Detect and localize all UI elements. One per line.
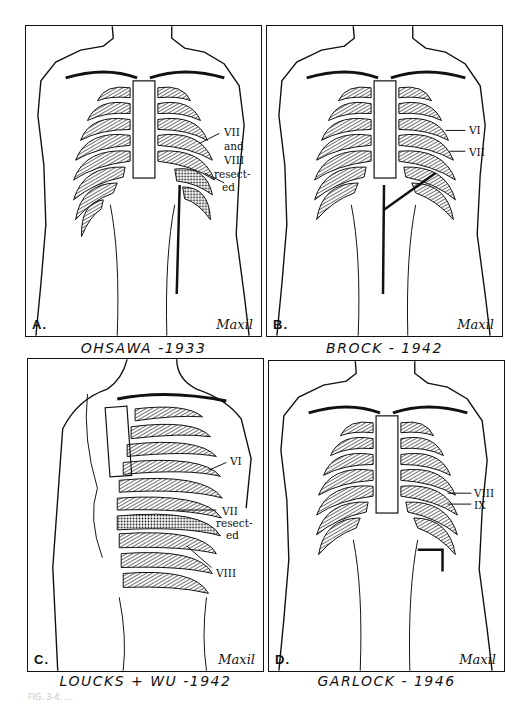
label-rib-ix-d: IX [474, 499, 486, 511]
label-resected-a: resect- [214, 168, 250, 180]
label-rib-vi-c: VI [230, 455, 242, 467]
caption-d: GARLOCK - 1946 [268, 673, 505, 689]
label-rib-viii-a: VIII [224, 154, 244, 166]
figure-footer-caption: FIG. 3-4. ... [28, 693, 508, 702]
label-rib-viii-c: VIII [216, 567, 236, 579]
panel-letter-b: B. [273, 317, 288, 332]
label-ed-a: ed [222, 181, 235, 193]
panel-a: VII and VIII resect- ed A. Maxil [25, 25, 262, 337]
caption-b: BROCK - 1942 [266, 340, 503, 356]
panel-b: VI VII B. Maxil [266, 25, 503, 337]
panel-letter-c: C. [34, 652, 49, 667]
label-and-a: and [224, 140, 244, 152]
label-resected-c: resect- [216, 517, 252, 529]
label-ed-c: ed [226, 529, 239, 541]
panel-d: VIII IX D. Maxil [268, 360, 505, 672]
chest-illustration-b [267, 26, 502, 336]
panel-letter-a: A. [32, 317, 47, 332]
artist-signature-c: Maxil [218, 652, 255, 667]
label-rib-vii-a: VII [224, 126, 240, 138]
artist-signature-d: Maxil [459, 652, 496, 667]
chest-illustration-d [269, 361, 504, 671]
caption-c: LOUCKS + WU -1942 [27, 673, 264, 689]
label-rib-vii-c: VII [222, 505, 238, 517]
panel-c: VI VII resect- ed VIII C. Maxil [27, 358, 264, 672]
artist-signature-a: Maxil [216, 317, 253, 332]
panel-letter-d: D. [275, 652, 290, 667]
artist-signature-b: Maxil [457, 317, 494, 332]
label-rib-vii-b: VII [469, 146, 485, 158]
label-rib-viii-d: VIII [474, 487, 494, 499]
caption-a: OHSAWA -1933 [25, 340, 262, 356]
label-rib-vi-b: VI [469, 124, 481, 136]
